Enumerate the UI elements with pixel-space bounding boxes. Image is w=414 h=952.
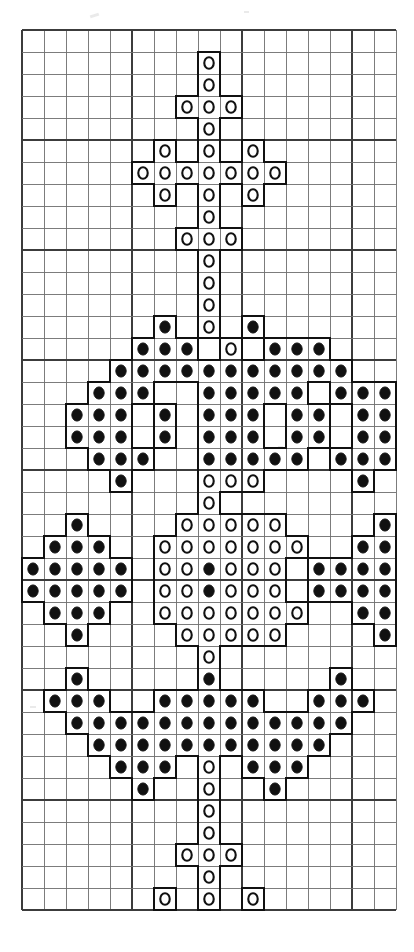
filled-circle-icon <box>248 717 258 729</box>
filled-circle-icon <box>380 629 390 641</box>
filled-circle-icon <box>226 409 236 421</box>
open-circle-icon <box>182 607 191 618</box>
filled-circle-icon <box>292 761 302 773</box>
open-circle-icon <box>182 167 191 178</box>
open-circle-icon <box>204 167 213 178</box>
filled-circle-icon <box>160 739 170 751</box>
filled-circle-icon <box>204 431 214 443</box>
filled-circle-icon <box>358 475 368 487</box>
open-circle-icon <box>160 541 169 552</box>
open-circle-icon <box>204 299 213 310</box>
open-circle-icon <box>204 783 213 794</box>
filled-circle-icon <box>248 387 258 399</box>
filled-circle-icon <box>182 739 192 751</box>
filled-circle-icon <box>72 695 82 707</box>
filled-circle-icon <box>270 717 280 729</box>
filled-circle-icon <box>358 695 368 707</box>
filled-circle-icon <box>226 365 236 377</box>
filled-circle-icon <box>94 453 104 465</box>
open-circle-icon <box>138 167 147 178</box>
filled-circle-icon <box>138 783 148 795</box>
filled-circle-icon <box>94 607 104 619</box>
filled-circle-icon <box>358 387 368 399</box>
filled-circle-icon <box>336 717 346 729</box>
open-circle-icon <box>160 145 169 156</box>
filled-circle-icon <box>160 695 170 707</box>
filled-circle-icon <box>160 409 170 421</box>
filled-circle-icon <box>50 541 60 553</box>
filled-circle-icon <box>336 585 346 597</box>
filled-circle-icon <box>138 453 148 465</box>
filled-circle-icon <box>204 695 214 707</box>
filled-circle-icon <box>380 387 390 399</box>
filled-circle-icon <box>204 563 214 575</box>
open-circle-icon <box>248 585 257 596</box>
filled-circle-icon <box>336 563 346 575</box>
open-circle-icon <box>204 497 213 508</box>
filled-circle-icon <box>138 739 148 751</box>
filled-circle-icon <box>28 563 38 575</box>
open-circle-icon <box>270 629 279 640</box>
filled-circle-icon <box>204 585 214 597</box>
open-circle-icon <box>204 189 213 200</box>
chart-canvas <box>0 0 414 952</box>
open-circle-icon <box>204 57 213 68</box>
filled-circle-icon <box>50 563 60 575</box>
filled-circle-icon <box>116 563 126 575</box>
open-circle-icon <box>248 519 257 530</box>
open-circle-icon <box>270 519 279 530</box>
open-circle-icon <box>204 101 213 112</box>
filled-circle-icon <box>380 541 390 553</box>
filled-circle-icon <box>226 431 236 443</box>
open-circle-icon <box>182 585 191 596</box>
filled-circle-icon <box>358 431 368 443</box>
filled-circle-icon <box>204 387 214 399</box>
filled-circle-icon <box>50 585 60 597</box>
filled-circle-icon <box>292 717 302 729</box>
filled-circle-icon <box>314 343 324 355</box>
open-circle-icon <box>226 101 235 112</box>
filled-circle-icon <box>116 761 126 773</box>
open-circle-icon <box>160 607 169 618</box>
filled-circle-icon <box>358 409 368 421</box>
filled-circle-icon <box>204 409 214 421</box>
filled-circle-icon <box>94 585 104 597</box>
filled-circle-icon <box>116 739 126 751</box>
filled-circle-icon <box>94 717 104 729</box>
filled-circle-icon <box>94 387 104 399</box>
filled-circle-icon <box>358 453 368 465</box>
filled-circle-icon <box>160 761 170 773</box>
open-circle-icon <box>160 167 169 178</box>
open-circle-icon <box>248 893 257 904</box>
filled-circle-icon <box>160 343 170 355</box>
filled-circle-icon <box>248 695 258 707</box>
filled-circle-icon <box>116 717 126 729</box>
filled-circle-icon <box>116 387 126 399</box>
filled-circle-icon <box>380 453 390 465</box>
filled-circle-icon <box>182 365 192 377</box>
filled-circle-icon <box>72 673 82 685</box>
filled-circle-icon <box>292 387 302 399</box>
open-circle-icon <box>204 321 213 332</box>
filled-circle-icon <box>72 409 82 421</box>
filled-circle-icon <box>226 695 236 707</box>
open-circle-icon <box>204 277 213 288</box>
open-circle-icon <box>270 541 279 552</box>
filled-circle-icon <box>226 739 236 751</box>
cross-stitch-chart <box>0 0 414 952</box>
filled-circle-icon <box>116 431 126 443</box>
open-circle-icon <box>248 145 257 156</box>
filled-circle-icon <box>204 453 214 465</box>
filled-circle-icon <box>358 563 368 575</box>
open-circle-icon <box>248 475 257 486</box>
filled-circle-icon <box>116 475 126 487</box>
open-circle-icon <box>226 563 235 574</box>
open-circle-icon <box>248 629 257 640</box>
filled-circle-icon <box>226 453 236 465</box>
open-circle-icon <box>204 893 213 904</box>
filled-circle-icon <box>94 431 104 443</box>
filled-circle-icon <box>292 343 302 355</box>
filled-circle-icon <box>314 739 324 751</box>
filled-circle-icon <box>204 365 214 377</box>
open-circle-icon <box>248 563 257 574</box>
